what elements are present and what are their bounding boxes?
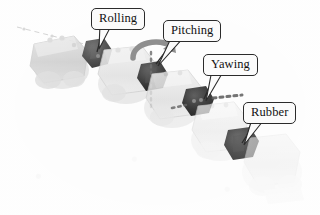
label-rubber: Rubber <box>243 102 296 124</box>
robot-annotated-figure: Rolling Pitching Yawing Rubber <box>0 0 320 215</box>
label-pitching: Pitching <box>163 20 221 42</box>
label-yawing: Yawing <box>203 54 258 76</box>
label-rolling: Rolling <box>91 8 145 30</box>
